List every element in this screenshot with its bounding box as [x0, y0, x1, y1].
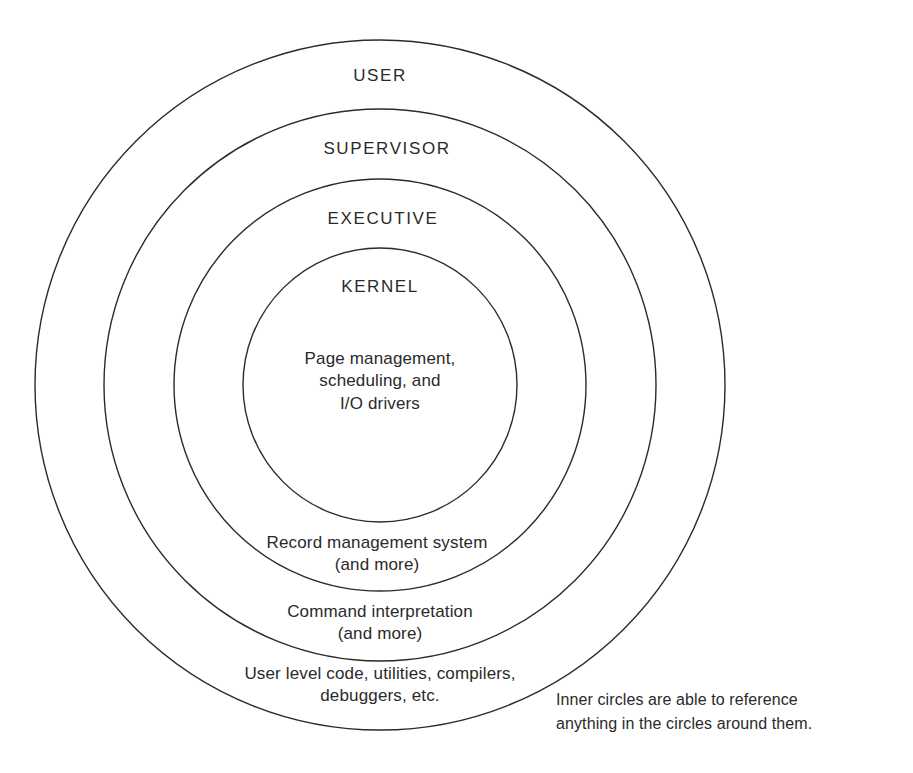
- ring-description-line: I/O drivers: [305, 393, 456, 415]
- diagram-caption-line: anything in the circles around them.: [556, 712, 812, 736]
- ring-description-line: Record management system: [267, 532, 488, 554]
- ring-description-line: (and more): [287, 623, 473, 645]
- ring-label-kernel: KERNEL: [341, 276, 419, 298]
- ring-description-line: scheduling, and: [305, 370, 456, 392]
- layered-os-diagram: USER SUPERVISOR EXECUTIVE KERNEL Page ma…: [0, 0, 913, 773]
- concentric-rings-graphic: [0, 0, 913, 773]
- ring-description-line: (and more): [267, 554, 488, 576]
- ring-description-line: debuggers, etc.: [244, 685, 515, 707]
- ring-label-supervisor: SUPERVISOR: [323, 138, 450, 160]
- ring-description-executive: Record management system (and more): [267, 532, 488, 577]
- ring-description-kernel: Page management, scheduling, and I/O dri…: [305, 348, 456, 415]
- ring-description-user: User level code, utilities, compilers, d…: [244, 663, 515, 708]
- ring-label-executive: EXECUTIVE: [328, 208, 439, 230]
- ring-description-supervisor: Command interpretation (and more): [287, 601, 473, 646]
- diagram-caption: Inner circles are able to reference anyt…: [556, 688, 812, 736]
- diagram-caption-line: Inner circles are able to reference: [556, 688, 812, 712]
- ring-label-user: USER: [353, 65, 407, 87]
- ring-description-line: User level code, utilities, compilers,: [244, 663, 515, 685]
- ring-description-line: Page management,: [305, 348, 456, 370]
- ring-description-line: Command interpretation: [287, 601, 473, 623]
